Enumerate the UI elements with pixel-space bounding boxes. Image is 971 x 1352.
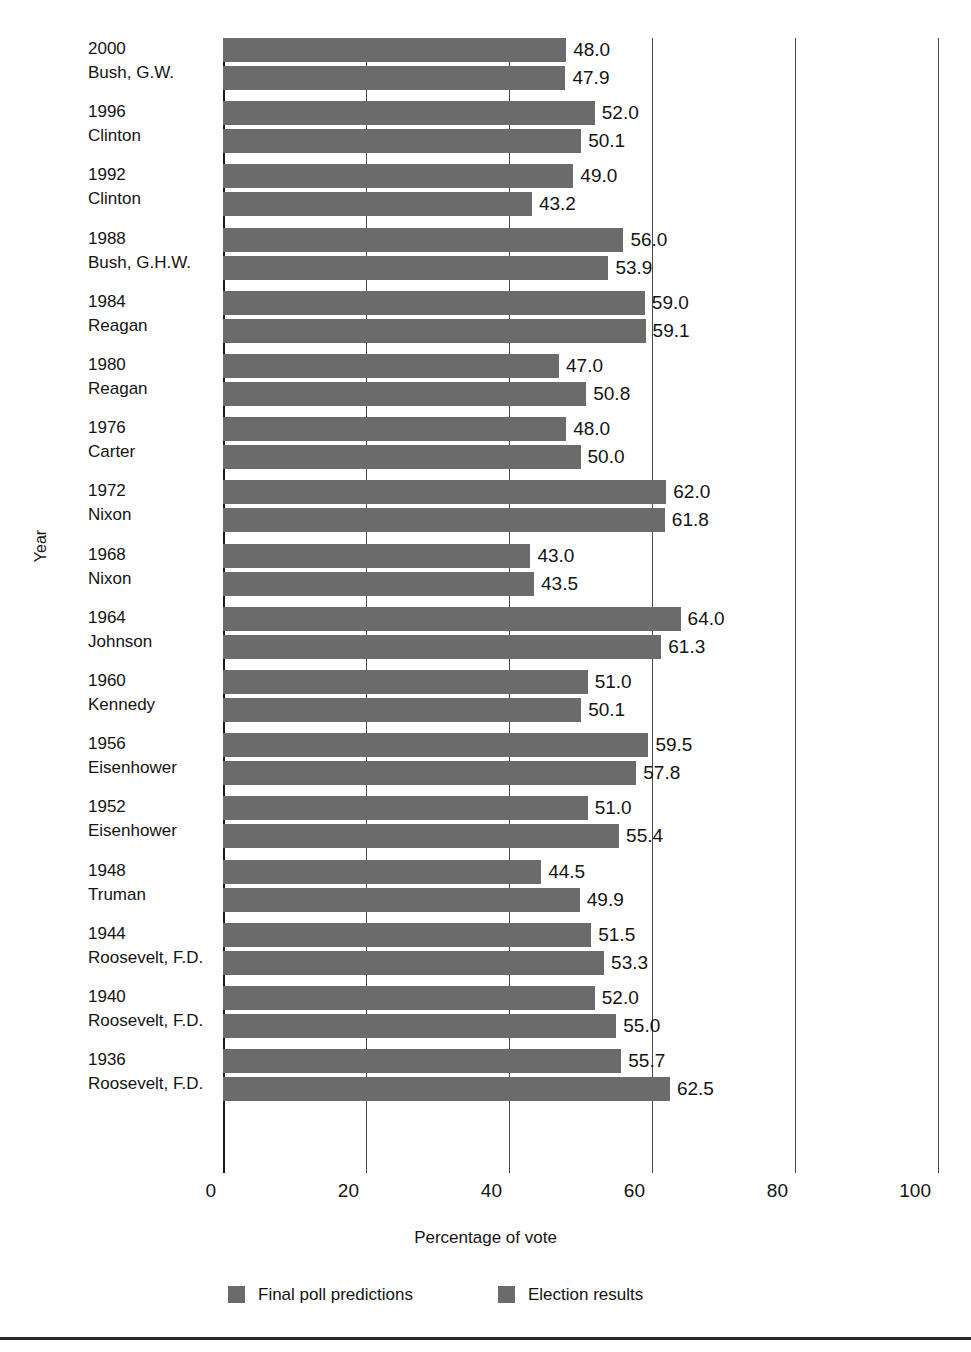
x-axis-tick-100: 100 (899, 1180, 938, 1202)
category-label: 2000Bush, G.W. (88, 37, 218, 85)
category-year: 1964 (88, 606, 218, 630)
chart-legend: Final poll predictionsElection results (0, 1283, 971, 1309)
category-label: 1944Roosevelt, F.D. (88, 922, 218, 970)
bar-value-label: 56.0 (630, 228, 667, 252)
bar-prediction (223, 544, 530, 568)
bar-result (223, 192, 532, 216)
bar-group: 44.549.9 (223, 860, 938, 912)
bar-group: 48.050.0 (223, 417, 938, 469)
category-label: 1968Nixon (88, 543, 218, 591)
category-person: Bush, G.H.W. (88, 251, 218, 275)
category-person: Reagan (88, 377, 218, 401)
bar-prediction (223, 354, 559, 378)
bar-result (223, 572, 534, 596)
category-year: 1996 (88, 100, 218, 124)
bar-value-label: 48.0 (573, 417, 610, 441)
y-axis-title: Year (32, 486, 50, 606)
x-axis-tick-80: 80 (767, 1180, 795, 1202)
bar-value-label: 57.8 (643, 761, 680, 785)
bar-chart: Year 48.047.952.050.149.043.256.053.959.… (0, 0, 971, 1352)
bar-value-label: 43.5 (541, 572, 578, 596)
bar-value-label: 51.5 (598, 923, 635, 947)
plot-area: 48.047.952.050.149.043.256.053.959.059.1… (223, 38, 938, 1173)
bar-value-label: 53.3 (611, 951, 648, 975)
category-label: 1948Truman (88, 859, 218, 907)
x-axis-tick-40: 40 (481, 1180, 509, 1202)
bar-prediction (223, 228, 623, 252)
category-year: 1972 (88, 479, 218, 503)
category-year: 1976 (88, 416, 218, 440)
bar-value-label: 51.0 (595, 670, 632, 694)
category-year: 1956 (88, 732, 218, 756)
bar-prediction (223, 291, 645, 315)
bar-value-label: 52.0 (602, 101, 639, 125)
category-label: 1972Nixon (88, 479, 218, 527)
bar-value-label: 59.1 (653, 319, 690, 343)
category-year: 1984 (88, 290, 218, 314)
x-axis-title: Percentage of vote (0, 1228, 971, 1248)
category-year: 1980 (88, 353, 218, 377)
category-year: 1940 (88, 985, 218, 1009)
bar-group: 52.055.0 (223, 986, 938, 1038)
category-person: Johnson (88, 630, 218, 654)
bar-prediction (223, 860, 541, 884)
bar-value-label: 62.5 (677, 1077, 714, 1101)
category-label: 1940Roosevelt, F.D. (88, 985, 218, 1033)
bar-result (223, 1077, 670, 1101)
bar-value-label: 61.3 (668, 635, 705, 659)
bar-result (223, 319, 646, 343)
bar-result (223, 66, 565, 90)
category-label: 1984Reagan (88, 290, 218, 338)
bar-value-label: 59.0 (652, 291, 689, 315)
bar-group: 51.050.1 (223, 670, 938, 722)
legend-item-predictions[interactable]: Final poll predictions (228, 1283, 413, 1307)
bar-value-label: 52.0 (602, 986, 639, 1010)
bar-prediction (223, 1049, 621, 1073)
category-year: 1968 (88, 543, 218, 567)
bar-prediction (223, 101, 595, 125)
bar-result (223, 761, 636, 785)
bar-prediction (223, 923, 591, 947)
category-person: Kennedy (88, 693, 218, 717)
category-label: 1952Eisenhower (88, 795, 218, 843)
bar-result (223, 635, 661, 659)
category-year: 1992 (88, 163, 218, 187)
category-person: Eisenhower (88, 756, 218, 780)
category-label: 1988Bush, G.H.W. (88, 227, 218, 275)
category-person: Clinton (88, 187, 218, 211)
bar-value-label: 47.9 (572, 66, 609, 90)
bar-result (223, 888, 580, 912)
bar-prediction (223, 670, 588, 694)
category-year: 1944 (88, 922, 218, 946)
category-person: Truman (88, 883, 218, 907)
category-year: 2000 (88, 37, 218, 61)
bar-prediction (223, 607, 681, 631)
bar-value-label: 55.4 (626, 824, 663, 848)
category-person: Reagan (88, 314, 218, 338)
category-year: 1952 (88, 795, 218, 819)
category-label: 1980Reagan (88, 353, 218, 401)
legend-label: Final poll predictions (258, 1283, 413, 1307)
bar-result (223, 129, 581, 153)
bar-group: 51.055.4 (223, 796, 938, 848)
bar-value-label: 49.9 (587, 888, 624, 912)
bar-group: 59.059.1 (223, 291, 938, 343)
category-person: Roosevelt, F.D. (88, 1072, 218, 1096)
category-person: Nixon (88, 503, 218, 527)
bar-group: 56.053.9 (223, 228, 938, 280)
bar-prediction (223, 796, 588, 820)
bar-group: 43.043.5 (223, 544, 938, 596)
bar-result (223, 1014, 616, 1038)
category-person: Nixon (88, 567, 218, 591)
bar-result (223, 382, 586, 406)
category-year: 1936 (88, 1048, 218, 1072)
legend-item-results[interactable]: Election results (498, 1283, 643, 1307)
bar-result (223, 445, 581, 469)
bar-value-label: 50.1 (588, 698, 625, 722)
bar-value-label: 50.0 (588, 445, 625, 469)
bar-prediction (223, 417, 566, 441)
bar-value-label: 53.9 (615, 256, 652, 280)
bar-prediction (223, 38, 566, 62)
bar-result (223, 951, 604, 975)
legend-label: Election results (528, 1283, 643, 1307)
